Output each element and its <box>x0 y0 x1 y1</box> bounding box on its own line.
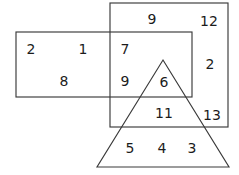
diagram-canvas: 9 12 2 1 7 2 8 9 6 11 13 5 4 3 <box>0 0 239 175</box>
number-label-2-right: 2 <box>205 57 214 71</box>
number-label-11: 11 <box>155 106 173 120</box>
number-label-5: 5 <box>125 141 134 155</box>
number-label-1: 1 <box>78 42 87 56</box>
number-label-6: 6 <box>159 75 168 89</box>
number-label-8: 8 <box>59 74 68 88</box>
number-label-13: 13 <box>203 108 221 122</box>
number-label-3: 3 <box>187 141 196 155</box>
number-label-9-top: 9 <box>147 12 156 26</box>
number-label-7: 7 <box>120 42 129 56</box>
number-label-2-left: 2 <box>26 42 35 56</box>
number-label-9-mid: 9 <box>120 74 129 88</box>
number-label-12: 12 <box>200 14 218 28</box>
number-label-4: 4 <box>157 141 166 155</box>
number-label-layer: 9 12 2 1 7 2 8 9 6 11 13 5 4 3 <box>0 0 239 175</box>
